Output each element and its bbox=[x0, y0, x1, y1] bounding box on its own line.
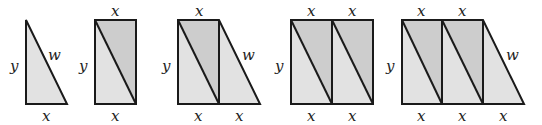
label-x: x bbox=[195, 2, 204, 20]
label-x: x bbox=[499, 107, 508, 125]
figure-rectangle-2: y x x x x bbox=[274, 2, 373, 125]
label-y: y bbox=[161, 57, 171, 75]
label-x: x bbox=[307, 2, 316, 20]
figure-rectangle-1: y x x bbox=[78, 2, 136, 125]
label-x: x bbox=[111, 2, 120, 20]
label-x: x bbox=[417, 107, 426, 125]
label-x: x bbox=[458, 2, 467, 20]
label-x: x bbox=[348, 2, 357, 20]
label-x: x bbox=[111, 107, 120, 125]
diagram-canvas: y w x y x x y x w x x y x x bbox=[0, 0, 542, 125]
label-w: w bbox=[48, 46, 61, 64]
label-x: x bbox=[458, 107, 467, 125]
label-y: y bbox=[274, 57, 284, 75]
label-x: x bbox=[194, 107, 203, 125]
label-w: w bbox=[506, 46, 519, 64]
label-x: x bbox=[417, 2, 426, 20]
label-w: w bbox=[242, 46, 255, 64]
label-x: x bbox=[307, 107, 316, 125]
label-y: y bbox=[78, 57, 88, 75]
figure-trapezoid-2: y x x w x x x bbox=[385, 2, 524, 125]
label-x: x bbox=[348, 107, 357, 125]
label-x: x bbox=[235, 107, 244, 125]
label-y: y bbox=[385, 57, 395, 75]
label-y: y bbox=[9, 57, 19, 75]
figure-triangle: y w x bbox=[9, 20, 67, 125]
figure-trapezoid-1: y x w x x bbox=[161, 2, 260, 125]
label-x: x bbox=[42, 107, 51, 125]
